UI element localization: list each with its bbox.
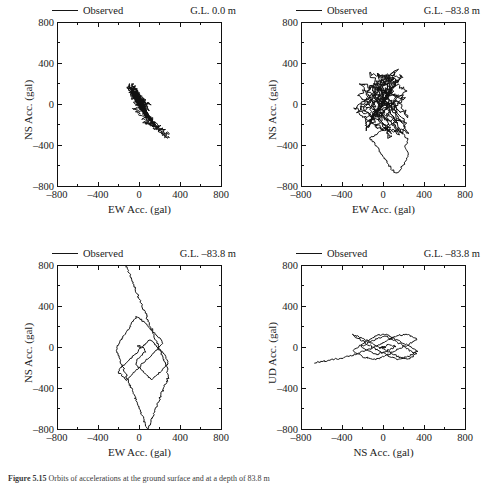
x-tick-minor xyxy=(118,184,119,187)
y-tick-minor xyxy=(301,326,304,327)
x-tick-top xyxy=(424,22,425,27)
y-tick-right xyxy=(217,388,222,389)
y-tick-minor xyxy=(57,367,60,368)
x-tick-top xyxy=(383,265,384,270)
x-tick-0 xyxy=(383,182,384,187)
legend-label: Observed xyxy=(83,4,123,17)
figure-container: Observed G.L. 0.0 m xyxy=(0,0,488,487)
y-tick-right-minor xyxy=(463,285,466,286)
x-tick-neg400 xyxy=(342,425,343,430)
y-tick-minor xyxy=(301,285,304,286)
plot-area xyxy=(57,265,222,430)
x-tick-minor xyxy=(362,427,363,430)
orbit-trace xyxy=(116,267,169,429)
plot-area xyxy=(301,265,466,430)
x-axis-title: EW Acc. (gal) xyxy=(57,203,222,215)
y-tick-minor xyxy=(301,124,304,125)
caption-label: Figure 5.15 xyxy=(8,474,47,483)
y-axis-label-800: 800 xyxy=(0,260,54,271)
panel-bottom-left: Observed G.L. –83.8 m xyxy=(0,243,244,471)
x-tick-top xyxy=(221,22,222,27)
y-tick-400 xyxy=(301,63,306,64)
x-tick-400 xyxy=(424,425,425,430)
y-axis-title: NS Acc. (gal) xyxy=(22,277,34,429)
y-tick-minor xyxy=(57,326,60,327)
y-tick-right-minor xyxy=(219,367,222,368)
y-tick-right xyxy=(217,306,222,307)
x-tick-minor xyxy=(444,427,445,430)
y-tick-0 xyxy=(57,347,62,348)
x-tick-minor xyxy=(118,427,119,430)
x-tick-top xyxy=(139,22,140,27)
x-tick-neg800 xyxy=(57,182,58,187)
x-tick-top xyxy=(139,265,140,270)
legend-line-swatch xyxy=(296,253,322,254)
x-tick-top xyxy=(342,22,343,27)
orbit-trace-svg xyxy=(58,23,221,186)
x-tick-minor xyxy=(159,427,160,430)
legend-line-swatch xyxy=(52,10,78,11)
x-tick-top-minor xyxy=(321,22,322,25)
plot-area xyxy=(301,22,466,187)
legend: Observed xyxy=(296,247,367,260)
y-tick-minor xyxy=(57,165,60,166)
x-tick-top xyxy=(465,22,466,27)
x-tick-minor xyxy=(321,427,322,430)
x-tick-top-minor xyxy=(403,265,404,268)
x-tick-neg400 xyxy=(98,425,99,430)
legend-label: Observed xyxy=(327,4,367,17)
x-tick-top-minor xyxy=(118,265,119,268)
y-axis-label-800: 800 xyxy=(0,17,54,28)
x-tick-400 xyxy=(180,425,181,430)
y-tick-right-minor xyxy=(463,326,466,327)
y-tick-minor xyxy=(57,83,60,84)
x-tick-top-minor xyxy=(444,265,445,268)
y-tick-0 xyxy=(301,104,306,105)
y-tick-right-minor xyxy=(463,367,466,368)
x-tick-top-minor xyxy=(321,265,322,268)
legend-label: Observed xyxy=(83,247,123,260)
x-tick-neg800 xyxy=(57,425,58,430)
depth-annotation: G.L. –83.8 m xyxy=(180,247,236,260)
x-tick-400 xyxy=(180,182,181,187)
y-tick-400 xyxy=(57,306,62,307)
x-tick-800 xyxy=(221,425,222,430)
panel-top-right: Observed G.L. –83.8 m xyxy=(244,0,488,228)
depth-annotation: G.L. –83.8 m xyxy=(424,247,480,260)
x-tick-top-minor xyxy=(77,22,78,25)
y-tick-right xyxy=(461,306,466,307)
x-tick-minor xyxy=(200,427,201,430)
y-tick-minor xyxy=(301,408,304,409)
x-tick-top xyxy=(180,265,181,270)
y-axis-title: NS Acc. (gal) xyxy=(266,34,278,186)
y-tick-right-minor xyxy=(463,124,466,125)
legend: Observed xyxy=(52,247,123,260)
y-tick-400 xyxy=(301,306,306,307)
y-axis-title: NS Acc. (gal) xyxy=(22,34,34,186)
x-tick-top-minor xyxy=(444,22,445,25)
x-tick-top-minor xyxy=(159,265,160,268)
x-tick-top xyxy=(180,22,181,27)
legend-label: Observed xyxy=(327,247,367,260)
y-tick-right-minor xyxy=(463,83,466,84)
x-tick-top-minor xyxy=(77,265,78,268)
x-tick-400 xyxy=(424,182,425,187)
y-tick-neg400 xyxy=(301,388,306,389)
orbit-trace-svg xyxy=(302,266,465,429)
x-tick-top-minor xyxy=(362,265,363,268)
figure-caption: Figure 5.15 Orbits of accelerations at t… xyxy=(8,474,480,484)
x-tick-minor xyxy=(159,184,160,187)
x-tick-top xyxy=(383,22,384,27)
orbit-trace xyxy=(314,334,418,363)
y-tick-right-minor xyxy=(219,42,222,43)
x-tick-neg400 xyxy=(98,182,99,187)
x-tick-800 xyxy=(465,182,466,187)
x-tick-minor xyxy=(403,184,404,187)
x-tick-top xyxy=(221,265,222,270)
x-axis-title: EW Acc. (gal) xyxy=(301,203,466,215)
y-axis-label-800: 800 xyxy=(238,260,298,271)
x-axis-title: NS Acc. (gal) xyxy=(301,446,466,458)
y-tick-minor xyxy=(301,367,304,368)
y-tick-right-minor xyxy=(219,83,222,84)
x-tick-minor xyxy=(362,184,363,187)
